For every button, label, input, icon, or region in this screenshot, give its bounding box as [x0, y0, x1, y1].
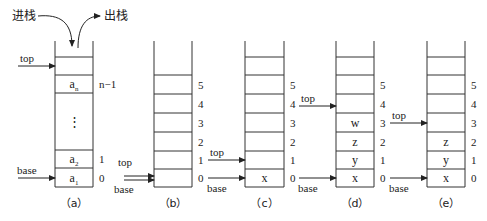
- stack-panel-d: 54w3z2y1x0topbase（d）: [298, 41, 386, 210]
- stack-cell-value: an: [70, 77, 79, 93]
- stack-index-label: 1: [290, 154, 296, 166]
- stack-index-label: 5: [380, 79, 386, 91]
- panel-caption: （d）: [341, 197, 370, 210]
- stack-cell-value: ⋮: [68, 114, 81, 129]
- stack-cell-value: w: [351, 116, 360, 130]
- base-pointer-label: base: [389, 182, 409, 194]
- stack-index-label: 1: [380, 154, 386, 166]
- stack-panel-b: 543210topbase（b）: [114, 41, 204, 210]
- stack-cell-value: y: [352, 153, 358, 167]
- stack-cell-value: y: [443, 153, 449, 167]
- top-pointer-label: top: [392, 109, 407, 121]
- stack-cell-value: a2: [70, 152, 79, 168]
- stack-index-label: 1: [471, 154, 477, 166]
- base-pointer-label: base: [298, 182, 318, 194]
- stack-panel-c: 54321x0topbase（c）: [207, 41, 296, 210]
- stack-index-label: 0: [380, 172, 386, 184]
- stack-index-label: 3: [290, 117, 296, 129]
- stack-index-label: 3: [380, 117, 386, 129]
- panel-caption: （c）: [250, 197, 278, 210]
- base-pointer-label: base: [17, 164, 37, 176]
- stack-cell-subscript: 2: [75, 160, 79, 168]
- stack-index-label: 3: [198, 117, 204, 129]
- push-pop-indicator: 进栈 出栈: [12, 8, 128, 48]
- stack-index-label: 0: [99, 172, 105, 184]
- stack-index-label: 5: [198, 79, 204, 91]
- stack-cell-subscript: n: [75, 85, 79, 93]
- top-pointer-label: top: [20, 52, 35, 64]
- stack-cell-value: z: [352, 135, 357, 149]
- stack-cell-value: x: [262, 171, 268, 185]
- stack-cell-value: x: [443, 171, 449, 185]
- panel-caption: （b）: [159, 197, 188, 210]
- stack-index-label: 3: [471, 117, 477, 129]
- stack-index-label: 4: [471, 98, 477, 110]
- stack-index-label: 4: [290, 98, 296, 110]
- stack-cell-value: z: [443, 135, 448, 149]
- stack-index-label: n−1: [99, 78, 116, 90]
- diagram-canvas: 进栈 出栈 ann−1⋮a21a10topbase（a）543210topbas…: [0, 0, 487, 221]
- push-label: 进栈: [12, 8, 36, 23]
- base-pointer-label: base: [114, 183, 134, 195]
- top-pointer-label: top: [210, 146, 225, 158]
- panel-caption: （e）: [432, 197, 461, 210]
- stack-cell-subscript: 1: [75, 179, 79, 187]
- top-pointer-label: top: [301, 92, 316, 104]
- stack-index-label: 1: [99, 153, 105, 165]
- stack-index-label: 0: [471, 172, 477, 184]
- stack-index-label: 2: [471, 136, 477, 148]
- stack-index-label: 2: [198, 136, 204, 148]
- stack-panel-e: 543z2y1x0topbase（e）: [389, 41, 477, 210]
- stack-index-label: 1: [198, 154, 204, 166]
- stack-index-label: 2: [290, 136, 296, 148]
- stack-index-label: 4: [380, 98, 386, 110]
- stack-cell-value: a1: [70, 171, 79, 187]
- stack-index-label: 2: [380, 136, 386, 148]
- stack-diagram: 进栈 出栈 ann−1⋮a21a10topbase（a）543210topbas…: [0, 0, 487, 221]
- panel-caption: （a）: [60, 197, 89, 210]
- pop-arrow-icon: [78, 16, 100, 48]
- stack-index-label: 0: [198, 172, 204, 184]
- stack-cell-value: x: [352, 171, 358, 185]
- top-pointer-label: top: [118, 156, 133, 168]
- stack-index-label: 5: [290, 79, 296, 91]
- stack-panel-a: ann−1⋮a21a10topbase（a）: [17, 41, 116, 210]
- stack-index-label: 5: [471, 79, 477, 91]
- pop-label: 出栈: [104, 8, 128, 23]
- stack-index-label: 0: [290, 172, 296, 184]
- stack-index-label: 4: [198, 98, 204, 110]
- stack-panels: ann−1⋮a21a10topbase（a）543210topbase（b）54…: [17, 41, 477, 210]
- base-pointer-label: base: [207, 182, 227, 194]
